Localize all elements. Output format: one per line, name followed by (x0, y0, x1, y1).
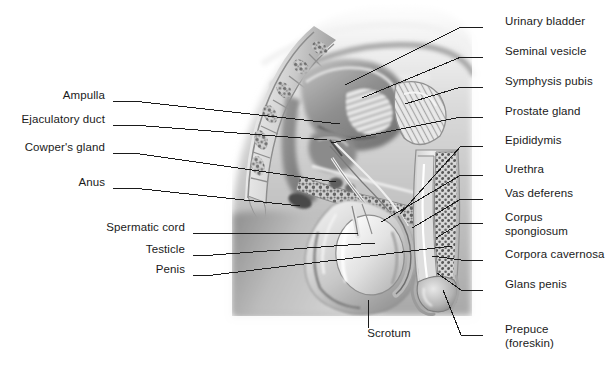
label-ejaculatory-duct: Ejaculatory duct (0, 113, 105, 127)
label-prepuce-foreskin: Prepuce (foreskin) (505, 323, 554, 350)
label-corpus-spongiosum: Corpus spongiosum (505, 211, 568, 238)
label-vas-deferens: Vas deferens (505, 187, 573, 201)
label-scrotum: Scrotum (349, 327, 429, 341)
label-urethra: Urethra (505, 163, 544, 177)
label-corpora-cavernosa: Corpora cavernosa (505, 248, 605, 262)
label-anus: Anus (0, 176, 105, 190)
penis-shaft (413, 150, 463, 297)
label-prostate-gland: Prostate gland (505, 105, 581, 119)
label-symphysis-pubis: Symphysis pubis (505, 75, 593, 89)
label-seminal-vesicle: Seminal vesicle (505, 45, 586, 59)
label-testicle: Testicle (60, 243, 185, 257)
label-urinary-bladder: Urinary bladder (505, 15, 585, 29)
anatomical-figure: Urinary bladder Seminal vesicle Symphysi… (0, 0, 614, 367)
label-glans-penis: Glans penis (505, 278, 567, 292)
label-epididymis: Epididymis (505, 134, 562, 148)
label-penis: Penis (60, 263, 185, 277)
label-spermatic-cord: Spermatic cord (60, 221, 185, 235)
label-cowpers-gland: Cowper's gland (0, 141, 105, 155)
label-ampulla: Ampulla (0, 89, 105, 103)
